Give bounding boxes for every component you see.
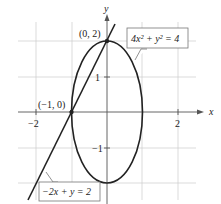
tick-y-1: 1 (95, 72, 100, 83)
tick-x-2: 2 (175, 118, 180, 129)
point-left-label: (−1, 0) (38, 99, 65, 111)
y-axis-label: y (103, 3, 109, 14)
x-arrow-icon (197, 110, 204, 115)
x-axis-label: x (208, 106, 214, 117)
tick-x-neg2: −2 (28, 118, 39, 129)
ellipse-equation: 4x² + y² = 4 (131, 33, 179, 44)
y-arrow-icon (105, 14, 110, 21)
line-equation: −2x + y = 2 (42, 186, 91, 197)
point-top (105, 39, 109, 43)
point-top-label: (0, 2) (79, 28, 101, 40)
chart-plot: x y −2 2 1 −1 (0, 2) (−1, 0) 4x² + y² = … (0, 0, 221, 204)
ellipse-callout: 4x² + y² = 4 (127, 28, 188, 60)
tick-y-neg1: −1 (92, 143, 103, 154)
